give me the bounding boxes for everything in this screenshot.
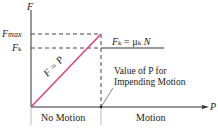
region-motion: Motion (136, 112, 165, 123)
impending-point (100, 106, 103, 109)
region-no-motion: No Motion (41, 112, 85, 123)
kinetic-rhs: N (141, 36, 150, 47)
y-axis-label: F (27, 1, 33, 12)
fmax-sub: max (8, 30, 21, 39)
annotation-line-2: Impending Motion (114, 77, 186, 88)
annotation-leader-line (101, 88, 113, 107)
annotation-line-1: Value of P for (114, 66, 167, 77)
kinetic-label: Fk = μk N (112, 36, 150, 49)
fk-sub: k (18, 45, 22, 53)
fk-tick-label: Fk (12, 42, 22, 55)
kinetic-eq: = μ (122, 36, 138, 47)
diagram-canvas (0, 0, 218, 130)
p-axis-arrow-icon (202, 105, 209, 109)
fmax-tick-label: Fmax (2, 28, 21, 40)
x-axis-label: P (210, 101, 216, 112)
